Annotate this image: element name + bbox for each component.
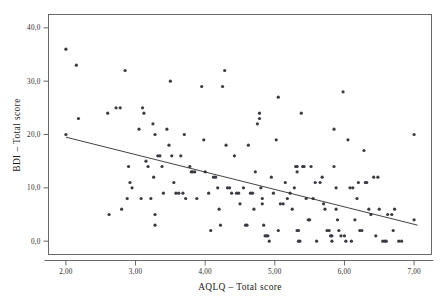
data-point bbox=[275, 138, 278, 141]
data-point bbox=[153, 213, 156, 216]
data-point bbox=[172, 181, 175, 184]
data-point bbox=[230, 192, 233, 195]
data-point bbox=[130, 186, 133, 189]
data-point bbox=[277, 96, 280, 99]
data-point bbox=[362, 149, 365, 152]
data-point bbox=[75, 64, 78, 67]
data-point bbox=[309, 165, 312, 168]
x-tick-label: 6,00 bbox=[338, 268, 352, 276]
data-point bbox=[335, 208, 338, 211]
data-point bbox=[308, 218, 311, 221]
data-point bbox=[238, 202, 241, 205]
data-point bbox=[223, 69, 226, 72]
data-point bbox=[106, 112, 109, 115]
data-point bbox=[221, 85, 224, 88]
data-point bbox=[228, 186, 231, 189]
data-point bbox=[258, 112, 261, 115]
x-axis-ticks: 2,003,004,005,006,007,00 bbox=[45, 261, 434, 276]
data-point bbox=[355, 197, 358, 200]
data-point bbox=[140, 197, 143, 200]
data-point bbox=[193, 170, 196, 173]
data-point bbox=[346, 138, 349, 141]
data-point bbox=[282, 202, 285, 205]
data-point bbox=[279, 202, 282, 205]
data-point bbox=[169, 80, 172, 83]
data-point bbox=[114, 106, 117, 109]
data-point bbox=[376, 176, 379, 179]
data-point bbox=[258, 117, 261, 120]
data-point bbox=[142, 112, 145, 115]
data-point bbox=[328, 229, 331, 232]
data-point bbox=[149, 197, 152, 200]
data-point bbox=[343, 234, 346, 237]
data-point bbox=[202, 138, 205, 141]
data-point bbox=[77, 117, 80, 120]
data-point bbox=[412, 218, 415, 221]
data-point bbox=[252, 208, 255, 211]
data-point bbox=[262, 224, 265, 227]
data-point bbox=[360, 229, 363, 232]
data-point bbox=[64, 133, 67, 136]
data-point bbox=[184, 197, 187, 200]
data-point bbox=[153, 133, 156, 136]
data-point bbox=[393, 208, 396, 211]
data-point bbox=[293, 186, 296, 189]
data-point bbox=[322, 202, 325, 205]
data-point bbox=[357, 181, 360, 184]
data-point bbox=[165, 128, 168, 131]
data-point bbox=[286, 197, 289, 200]
data-point bbox=[242, 186, 245, 189]
data-point bbox=[348, 186, 351, 189]
data-point bbox=[330, 234, 333, 237]
data-point bbox=[247, 144, 250, 147]
data-point bbox=[127, 165, 130, 168]
data-point bbox=[367, 208, 370, 211]
chart-canvas: 0,010,020,030,040,0 2,003,004,005,006,00… bbox=[0, 0, 446, 302]
data-point bbox=[339, 234, 342, 237]
data-point bbox=[335, 186, 338, 189]
data-point bbox=[365, 181, 368, 184]
data-point bbox=[174, 192, 177, 195]
data-point bbox=[261, 197, 264, 200]
data-point bbox=[261, 202, 264, 205]
data-point bbox=[412, 133, 415, 136]
data-point bbox=[207, 192, 210, 195]
data-point bbox=[137, 128, 140, 131]
data-point bbox=[390, 213, 393, 216]
data-point bbox=[64, 48, 67, 51]
data-point bbox=[266, 234, 269, 237]
data-point bbox=[297, 229, 300, 232]
data-point bbox=[330, 240, 333, 243]
data-point bbox=[332, 165, 335, 168]
data-point bbox=[298, 240, 301, 243]
x-tick-label: 2,00 bbox=[59, 268, 73, 276]
data-point bbox=[167, 144, 170, 147]
x-tick-label: 7,00 bbox=[407, 268, 421, 276]
data-point bbox=[214, 176, 217, 179]
data-point bbox=[374, 234, 377, 237]
data-point bbox=[160, 165, 163, 168]
data-point bbox=[146, 165, 149, 168]
data-point bbox=[323, 208, 326, 211]
data-point bbox=[219, 224, 222, 227]
y-tick-label: 30,0 bbox=[27, 78, 41, 86]
data-point bbox=[268, 240, 271, 243]
data-point bbox=[251, 192, 254, 195]
data-point bbox=[170, 154, 173, 157]
data-point bbox=[341, 90, 344, 93]
data-point bbox=[353, 218, 356, 221]
data-point bbox=[141, 106, 144, 109]
data-point bbox=[119, 106, 122, 109]
data-point bbox=[351, 186, 354, 189]
y-axis-title: BDI – Total score bbox=[12, 98, 22, 171]
data-point bbox=[386, 213, 389, 216]
data-point bbox=[200, 85, 203, 88]
data-point bbox=[216, 186, 219, 189]
data-point bbox=[397, 240, 400, 243]
plot-frame bbox=[49, 15, 432, 255]
x-tick-label: 3,00 bbox=[129, 268, 143, 276]
data-point bbox=[177, 192, 180, 195]
data-point bbox=[372, 176, 375, 179]
data-point bbox=[350, 240, 353, 243]
data-point bbox=[300, 112, 303, 115]
